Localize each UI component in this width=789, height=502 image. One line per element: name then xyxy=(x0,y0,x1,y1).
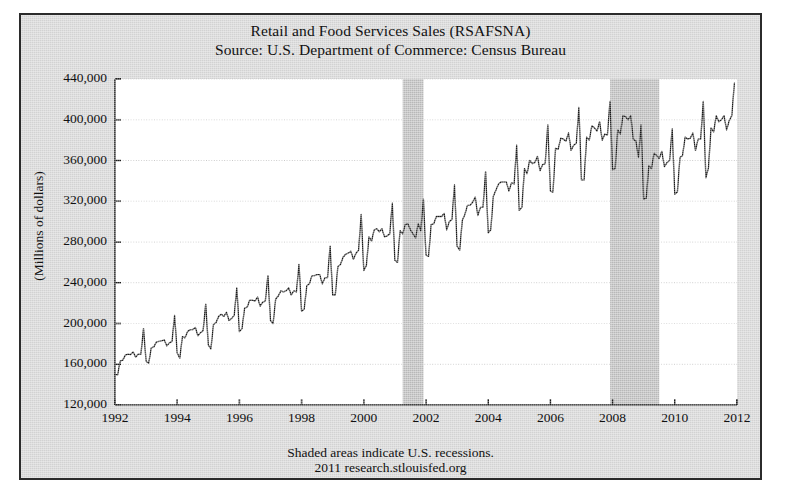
y-tick-label: 400,000 xyxy=(27,111,107,127)
footnote-source: 2011 research.stlouisfed.org xyxy=(21,460,760,475)
x-tick-label: 1994 xyxy=(151,410,203,426)
x-tick-label: 2010 xyxy=(649,410,701,426)
x-tick-label: 2000 xyxy=(338,410,390,426)
y-tick-label: 320,000 xyxy=(27,192,107,208)
footnote-recessions: Shaded areas indicate U.S. recessions. xyxy=(21,445,760,460)
y-tick-label: 240,000 xyxy=(27,274,107,290)
x-tick-label: 1996 xyxy=(213,410,265,426)
x-tick-label: 2006 xyxy=(524,410,576,426)
y-tick-label: 440,000 xyxy=(27,70,107,86)
chart-title: Retail and Food Services Sales (RSAFSNA) xyxy=(21,21,760,40)
x-tick-label: 1998 xyxy=(276,410,328,426)
y-tick-label: 280,000 xyxy=(27,233,107,249)
x-tick-label: 2008 xyxy=(587,410,639,426)
x-tick-label: 2004 xyxy=(462,410,514,426)
x-tick-label: 2002 xyxy=(400,410,452,426)
chart-figure: Retail and Food Services Sales (RSAFSNA)… xyxy=(19,13,762,480)
x-tick-label: 2012 xyxy=(711,410,763,426)
chart-subtitle: Source: U.S. Department of Commerce: Cen… xyxy=(21,40,760,59)
y-tick-label: 200,000 xyxy=(27,315,107,331)
y-tick-label: 160,000 xyxy=(27,355,107,371)
y-tick-label: 360,000 xyxy=(27,152,107,168)
x-tick-label: 1992 xyxy=(89,410,141,426)
chart-footnote: Shaded areas indicate U.S. recessions. 2… xyxy=(21,445,760,475)
chart-title-block: Retail and Food Services Sales (RSAFSNA)… xyxy=(21,21,760,59)
